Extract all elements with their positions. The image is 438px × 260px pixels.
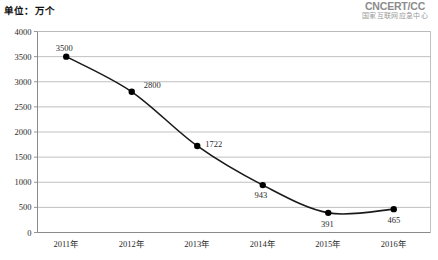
- y-axis-tick-label: 0: [27, 228, 31, 238]
- y-axis-tick-labels: 05001000150020002500300035004000: [15, 27, 32, 238]
- y-axis-tick-label: 2500: [15, 102, 32, 112]
- y-axis-tick-label: 3500: [15, 52, 32, 62]
- data-point-marker: [194, 143, 200, 149]
- data-point-markers: [63, 53, 397, 216]
- y-axis-tick-label: 500: [19, 202, 32, 212]
- data-point-value-labels: 350028001722943391465: [56, 43, 400, 229]
- data-series-line: [66, 57, 394, 214]
- y-axis-tick-label: 4000: [15, 27, 32, 37]
- data-point-marker: [63, 53, 69, 59]
- data-point-value-label: 3500: [56, 43, 73, 53]
- x-axis-category-label: 2014年: [250, 239, 276, 249]
- y-axis-tick-label: 2000: [15, 127, 32, 137]
- line-chart-plot: 05001000150020002500300035004000 2011年20…: [0, 0, 438, 260]
- y-axis-tick-label: 3000: [15, 77, 32, 87]
- data-point-marker: [391, 206, 397, 212]
- data-point-value-label: 1722: [205, 139, 222, 149]
- x-axis-category-label: 2012年: [119, 239, 145, 249]
- data-point-marker: [129, 89, 135, 95]
- data-point-value-label: 465: [387, 215, 400, 225]
- x-axis-category-label: 2013年: [184, 239, 210, 249]
- data-point-marker: [260, 182, 266, 188]
- x-axis-category-label: 2016年: [381, 239, 407, 249]
- x-axis-category-labels: 2011年2012年2013年2014年2015年2016年: [53, 239, 406, 249]
- data-point-marker: [325, 210, 331, 216]
- y-axis-tick-label: 1000: [15, 177, 32, 187]
- data-point-value-label: 943: [254, 190, 267, 200]
- y-axis-tick-label: 1500: [15, 152, 32, 162]
- data-point-value-label: 391: [321, 219, 334, 229]
- grid-lines: [38, 32, 431, 233]
- chart-figure: 单位：万个 CNCERT/CC 国家互联网应急中心 05001000150020…: [0, 0, 438, 260]
- x-axis-category-label: 2011年: [53, 239, 79, 249]
- x-axis-category-label: 2015年: [315, 239, 341, 249]
- data-point-value-label: 2800: [144, 80, 161, 90]
- series-line-path: [66, 57, 394, 214]
